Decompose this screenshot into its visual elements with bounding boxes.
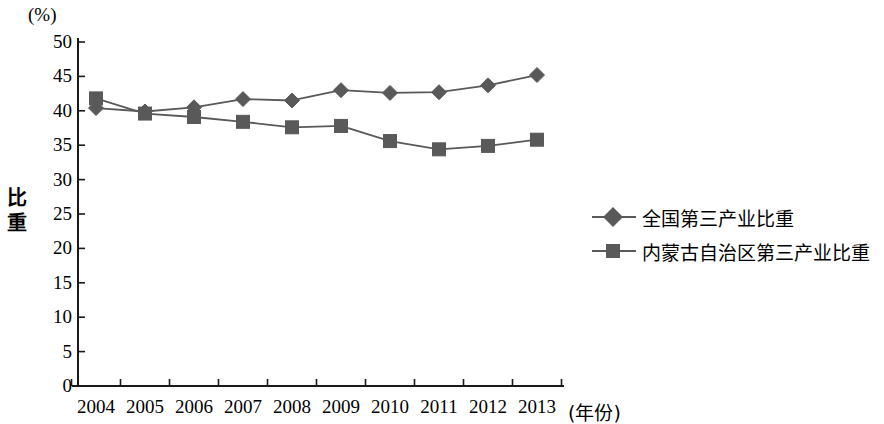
data-point-1-2010 [384, 135, 397, 148]
data-point-1-2004 [90, 92, 103, 105]
data-point-0-2010 [383, 85, 398, 100]
data-point-0-2007 [236, 92, 251, 107]
legend-label-inner-mongolia: 内蒙古自治区第三产业比重 [642, 238, 870, 265]
data-point-1-2005 [139, 107, 152, 120]
series-line-0 [96, 75, 537, 111]
legend-label-national: 全国第三产业比重 [642, 204, 794, 231]
square-marker-icon [592, 242, 636, 260]
data-point-1-2009 [335, 119, 348, 132]
data-point-0-2013 [530, 68, 545, 83]
data-point-1-2006 [188, 110, 201, 123]
data-point-1-2007 [237, 115, 250, 128]
data-point-1-2011 [433, 143, 446, 156]
data-point-0-2009 [334, 83, 349, 98]
legend-item-national: 全国第三产业比重 [592, 200, 870, 234]
data-point-0-2011 [432, 85, 447, 100]
chart-legend: 全国第三产业比重 内蒙古自治区第三产业比重 [592, 200, 870, 268]
chart-figure: (%) 比 重 05101520253035404550 20042005200… [0, 0, 884, 424]
data-point-0-2012 [481, 78, 496, 93]
data-point-1-2013 [531, 133, 544, 146]
data-point-1-2012 [482, 139, 495, 152]
data-point-0-2008 [285, 93, 300, 108]
legend-item-inner-mongolia: 内蒙古自治区第三产业比重 [592, 234, 870, 268]
series-line-1 [96, 98, 537, 149]
diamond-marker-icon [592, 208, 636, 226]
data-point-1-2008 [286, 121, 299, 134]
